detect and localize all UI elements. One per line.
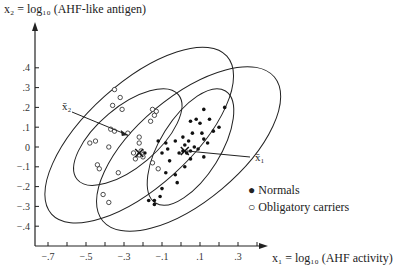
- carrier-point: [137, 135, 141, 139]
- normal-point: [153, 203, 157, 207]
- legend-normals: ● Normals: [248, 183, 300, 198]
- carrier-point: [118, 95, 122, 99]
- carrier-point: [131, 151, 135, 155]
- x-tick-label: .1: [196, 251, 204, 262]
- y-axis-arrow: [32, 22, 38, 31]
- y-tick-label: .3: [23, 82, 31, 93]
- y-tick-label: −.1: [17, 161, 30, 172]
- y-tick-label: −.2: [17, 181, 30, 192]
- x-axis-label: x₁ = log₁₀ (AHF activity): [272, 251, 393, 266]
- y-tick-label: −.4: [17, 221, 30, 232]
- normal-point: [191, 131, 195, 135]
- carrier-point: [101, 192, 105, 196]
- scatter-plot: −.7−.5−.3−.1.1.3.4.3.2.10−.1−.2−.3−.4: [0, 0, 408, 273]
- y-tick-label: 0: [25, 142, 30, 153]
- normal-point: [177, 151, 181, 155]
- carrier-point: [93, 139, 97, 143]
- normal-point: [194, 117, 198, 121]
- normal-point: [183, 165, 187, 169]
- mean2-arrow: [72, 112, 128, 135]
- normal-point: [223, 106, 227, 110]
- x-axis-arrow: [259, 243, 268, 249]
- y-tick-label: .1: [23, 122, 31, 133]
- legend-carriers-text: Obligatory carriers: [258, 200, 349, 214]
- normal-point: [198, 121, 202, 125]
- y-tick-label: .2: [23, 102, 31, 113]
- normal-point: [143, 151, 147, 155]
- normal-point: [196, 147, 200, 151]
- normal-point: [217, 125, 221, 129]
- carrier-point: [88, 141, 92, 145]
- carrier-point: [107, 200, 111, 204]
- normal-point: [187, 139, 191, 143]
- x-tick-label: −.7: [41, 251, 54, 262]
- normal-point: [174, 173, 178, 177]
- mean1-label: x̄₁: [255, 151, 264, 163]
- carrier-point: [148, 119, 152, 123]
- normal-point: [206, 141, 210, 145]
- carrier-point: [107, 145, 111, 149]
- normal-point: [212, 129, 216, 133]
- normal-point: [156, 139, 160, 143]
- normal-point: [153, 199, 157, 203]
- carrier-point: [150, 161, 154, 165]
- y-tick-label: −.3: [17, 201, 30, 212]
- normal-point: [160, 187, 164, 191]
- normal-point: [158, 195, 162, 199]
- mean1-arrow: [187, 151, 250, 157]
- carrier-point: [97, 167, 101, 171]
- x-tick-label: −.3: [117, 251, 130, 262]
- x-tick-label: .3: [234, 251, 242, 262]
- legend-normals-text: Normals: [258, 183, 299, 197]
- normal-point: [183, 143, 187, 147]
- carrier-point: [152, 113, 156, 117]
- normal-point: [202, 137, 206, 141]
- normal-point: [175, 181, 179, 185]
- normals-outer-ellipse: [69, 37, 307, 261]
- carrier-point: [133, 157, 137, 161]
- x-tick-label: −.5: [79, 251, 92, 262]
- y-axis-label: x₂ = log₁₀ (AHF-like antigen): [4, 2, 146, 17]
- normal-point: [189, 119, 193, 123]
- normal-point: [208, 117, 212, 121]
- normal-point: [147, 199, 151, 203]
- normals-inner-ellipse: [130, 75, 251, 219]
- normal-point: [200, 131, 204, 135]
- normal-point: [193, 145, 197, 149]
- normal-point: [164, 171, 168, 175]
- normal-point: [189, 157, 193, 161]
- normal-point: [166, 147, 170, 151]
- carrier-point: [156, 167, 160, 171]
- normal-point: [181, 135, 185, 139]
- normal-point: [202, 108, 206, 112]
- normal-point: [168, 159, 172, 163]
- x-tick-label: −.1: [155, 251, 168, 262]
- legend-carriers: ○ Obligatory carriers: [248, 200, 349, 215]
- carrier-point: [137, 141, 141, 145]
- normal-point: [202, 155, 206, 159]
- chart: −.7−.5−.3−.1.1.3.4.3.2.10−.1−.2−.3−.4 x₂…: [0, 0, 408, 273]
- carrier-point: [112, 87, 116, 91]
- carrier-point: [110, 103, 114, 107]
- y-tick-label: .4: [23, 62, 31, 73]
- normal-point: [164, 141, 168, 145]
- normal-point: [160, 151, 164, 155]
- carrier-point: [116, 171, 120, 175]
- carrier-point: [120, 107, 124, 111]
- normal-point: [174, 139, 178, 143]
- mean2-label: x̄₂: [62, 100, 71, 112]
